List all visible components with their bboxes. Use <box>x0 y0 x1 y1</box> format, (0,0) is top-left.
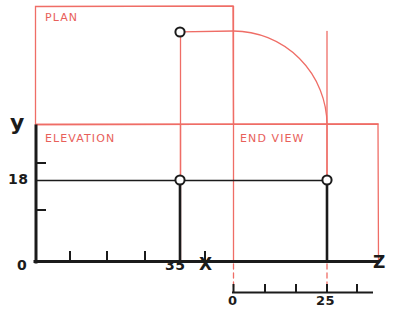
x-axis-letter: X <box>199 256 212 273</box>
y-axis-letter: y <box>10 112 24 134</box>
mitre-arc <box>234 31 328 125</box>
elevation-point-marker <box>175 175 184 184</box>
height-value-label: 18 <box>8 172 28 186</box>
elevation-view-label: ELEVATION <box>45 133 115 144</box>
point-markers <box>175 27 331 184</box>
x-value-label: 35 <box>165 258 185 272</box>
projector-horizontal-plan <box>181 31 234 32</box>
z-origin-label: 0 <box>228 294 238 307</box>
z-axis-letter: Z <box>373 254 385 271</box>
origin-label: 0 <box>17 258 27 272</box>
z-ruler-ticks <box>234 285 358 292</box>
z-extension-dashed-lines <box>234 264 328 292</box>
plan-view-label: PLAN <box>45 12 78 23</box>
end-view-label: END VIEW <box>240 133 305 144</box>
plan-point-marker <box>175 27 184 36</box>
drawing-canvas: PLAN ELEVATION END VIEW y X Z 18 0 35 0 … <box>0 0 406 315</box>
z-value-label: 25 <box>316 294 335 307</box>
endview-point-marker <box>322 175 331 184</box>
